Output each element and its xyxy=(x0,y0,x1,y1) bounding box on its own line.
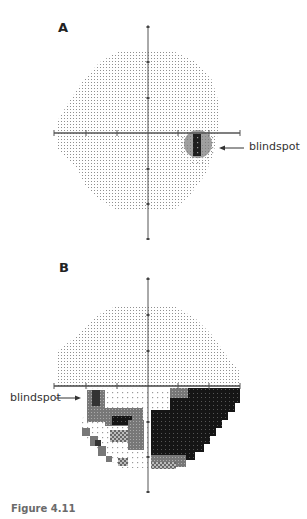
blindspot-label-a: blindspot xyxy=(249,140,300,153)
panel-b-label: B xyxy=(59,260,69,275)
visual-field-plot-a xyxy=(0,0,307,519)
blindspot-label-b: blindspot xyxy=(10,391,61,404)
figure-caption: Figure 4.11 xyxy=(11,503,75,514)
